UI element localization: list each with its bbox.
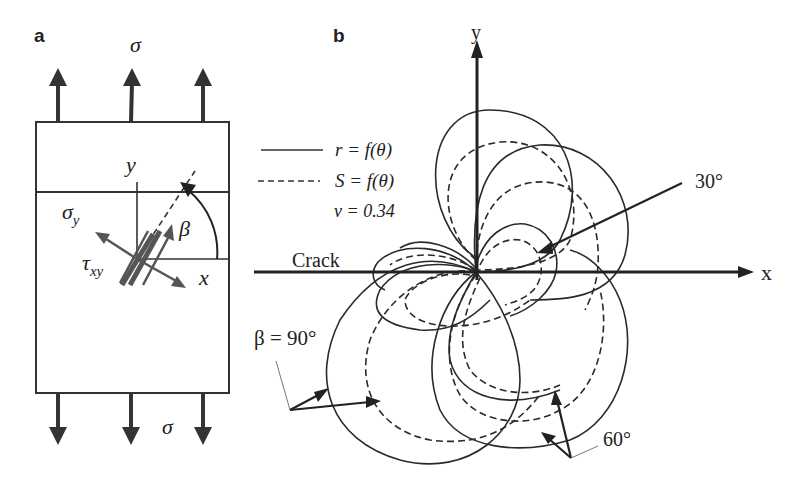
panel-b: b y [254, 21, 772, 464]
x-axis-arrowhead [738, 266, 754, 278]
sigma-top-label: σ [130, 32, 142, 57]
annotation-90: β = 90° [254, 326, 316, 350]
curve-r-30-mid [474, 145, 628, 300]
leader-90 [276, 361, 290, 410]
curve-s-60-b [463, 278, 560, 393]
beta-label: β [178, 216, 190, 241]
arrow-30 [545, 183, 682, 249]
panel-b-label: b [333, 25, 345, 46]
annotation-30: 30° [695, 170, 723, 192]
sigma-bottom-label: σ [162, 414, 174, 439]
axis-y-label: y [124, 152, 136, 177]
figure: a σ y x β [0, 0, 808, 481]
sigma-y-label: σy [62, 199, 80, 228]
axis-x-label: x [198, 265, 209, 290]
arrow-90-b-head [366, 396, 381, 408]
tensile-arrows-bottom [49, 393, 212, 445]
b-axis-y-label: y [471, 21, 481, 44]
legend: r = f(θ) S = f(θ) v = 0.34 [258, 139, 395, 221]
annotation-60: 60° [603, 428, 631, 450]
poisson-ratio-label: v = 0.34 [334, 201, 395, 221]
tau-xy-label: τxy [82, 250, 104, 279]
beta-arc [188, 190, 217, 259]
panel-a-label: a [34, 25, 45, 46]
curve-r-60 [432, 250, 628, 448]
arrow-90-a-head [314, 388, 329, 402]
crack-label: Crack [292, 249, 340, 271]
stress-element [95, 224, 186, 288]
arrow-30-head [537, 241, 553, 254]
panel-a: a σ y x β [34, 25, 229, 445]
leader-60 [571, 446, 598, 458]
arrow-60-a [557, 400, 571, 458]
tensile-arrows-top [49, 68, 212, 122]
curve-r-60-b [449, 272, 560, 400]
b-axis-x-label: x [761, 260, 772, 285]
legend-solid-label: r = f(θ) [335, 139, 392, 161]
legend-dashed-label: S = f(θ) [335, 170, 394, 192]
